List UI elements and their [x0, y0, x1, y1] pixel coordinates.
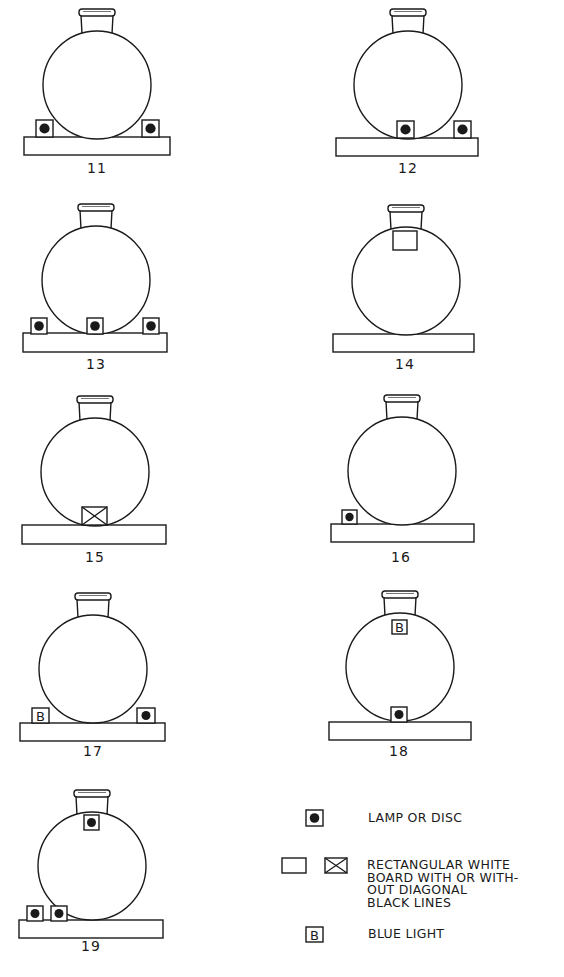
lamp-icon [51, 906, 67, 921]
figure-12 [336, 9, 478, 156]
lamp-icon [143, 318, 159, 334]
base-platform [331, 524, 474, 542]
boiler-front [39, 615, 147, 723]
chimney-cap [79, 9, 115, 16]
legend-board-label: RECTANGULAR WHITE BOARD WITH OR WITH- OU… [367, 859, 519, 909]
chimney-cap [75, 593, 111, 600]
lamp-icon [31, 318, 47, 334]
figure-15 [22, 396, 166, 544]
base-platform [336, 138, 478, 156]
figure-16 [331, 395, 474, 542]
legend-lamp-label: LAMP OR DISC [368, 812, 462, 825]
figure-18: B [329, 591, 471, 740]
lamp-icon [306, 810, 323, 826]
boiler-front [43, 31, 151, 139]
figure-14 [333, 205, 474, 352]
legend: B [282, 810, 347, 943]
chimney-cap [74, 790, 110, 797]
boiler-front [348, 417, 456, 525]
figure-label-12: 12 [398, 160, 418, 176]
board-crossed-icon [325, 858, 347, 873]
chimney-cap [388, 205, 424, 212]
figure-label-17: 17 [83, 743, 103, 759]
base-platform [22, 525, 166, 544]
board-crossed-icon [82, 507, 107, 525]
base-platform [329, 722, 471, 740]
lamp-icon [342, 510, 357, 524]
legend-blue-light-label: BLUE LIGHT [368, 928, 444, 941]
lamp-icon [36, 120, 53, 137]
lamp-icon [87, 318, 103, 334]
lamp-icon [142, 120, 159, 137]
chimney-cap [77, 396, 113, 403]
base-platform [333, 334, 474, 352]
figure-19 [19, 790, 163, 938]
figure-label-14: 14 [395, 356, 415, 372]
base-platform [23, 333, 167, 352]
svg-text:B: B [310, 928, 319, 943]
board-icon [393, 231, 417, 250]
svg-text:B: B [395, 620, 404, 635]
figure-label-13: 13 [86, 356, 106, 372]
board-icon [282, 858, 306, 873]
base-platform [19, 920, 163, 938]
figure-label-16: 16 [391, 549, 411, 565]
lamp-icon [454, 121, 471, 138]
chimney-cap [78, 204, 114, 211]
lamp-icon [391, 707, 407, 722]
figure-13 [23, 204, 167, 352]
figure-17: B [20, 593, 165, 741]
figure-label-15: 15 [85, 549, 105, 565]
chimney-cap [390, 9, 426, 16]
svg-text:B: B [36, 709, 45, 724]
base-platform [20, 723, 165, 741]
lamp-icon [137, 708, 155, 723]
figure-label-19: 19 [81, 938, 101, 954]
lamp-icon [84, 815, 99, 830]
chimney-cap [382, 591, 418, 598]
chimney-cap [384, 395, 420, 402]
blue-light-icon: B [392, 620, 407, 635]
figure-label-18: 18 [389, 743, 409, 759]
figure-11 [24, 9, 170, 155]
locomotive-signal-diagram: BBB [0, 0, 564, 977]
blue-light-icon: B [32, 708, 49, 724]
lamp-icon [27, 906, 43, 921]
blue-light-icon: B [306, 927, 323, 943]
lamp-icon [397, 121, 414, 138]
figure-label-11: 11 [87, 160, 107, 176]
